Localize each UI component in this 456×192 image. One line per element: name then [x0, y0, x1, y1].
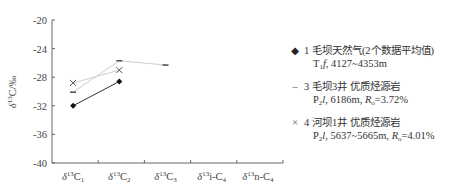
x-tick-label: δ13C1	[62, 170, 85, 184]
y-tick-label: -32	[33, 101, 47, 112]
y-axis-label: δ13C/‰	[6, 75, 18, 108]
x-marker-icon	[70, 80, 76, 86]
legend-detail: P2l, 6186m, Ro=3.72%	[304, 93, 456, 110]
legend-title: 1 毛坝天然气(2个数据平均值)	[304, 45, 434, 56]
diamond-marker-icon: ◆	[290, 44, 300, 57]
legend-detail: T1f, 4127~4353m	[304, 57, 456, 74]
legend-item-4: × 4 河坝1井 优质烃源岩 P2l, 5637~5665m, Ro=4.01%	[290, 116, 456, 146]
dash-marker-icon: –	[290, 80, 300, 93]
legend-detail: P2l, 5637~5665m, Ro=4.01%	[304, 129, 456, 146]
x-marker-icon: ×	[290, 116, 300, 129]
x-tick-label: δ13C3	[154, 170, 177, 184]
y-tick-label: -40	[33, 158, 47, 169]
diamond-marker-icon	[116, 78, 122, 84]
legend-item-3: – 3 毛坝3井 优质烃源岩 P2l, 6186m, Ro=3.72%	[290, 80, 456, 110]
diamond-marker-icon	[70, 103, 76, 109]
y-tick-label: -36	[33, 129, 47, 140]
y-tick-label: -24	[33, 44, 48, 55]
svg-text:δ13C/‰: δ13C/‰	[6, 75, 18, 108]
x-tick-label: δ13C2	[108, 170, 131, 184]
x-tick-label: δ13i-C4	[197, 170, 226, 184]
legend-title: 3 毛坝3井 优质烃源岩	[304, 81, 400, 92]
legend-item-1: ◆ 1 毛坝天然气(2个数据平均值) T1f, 4127~4353m	[290, 44, 456, 74]
series-layer	[70, 61, 168, 109]
legend: ◆ 1 毛坝天然气(2个数据平均值) T1f, 4127~4353m – 3 毛…	[290, 44, 456, 152]
x-tick-label: δ13n-C4	[242, 170, 274, 184]
legend-title: 4 河坝1井 优质烃源岩	[304, 117, 400, 128]
x-marker-icon	[116, 67, 122, 73]
y-tick-label: -28	[33, 72, 47, 83]
y-tick-label: -20	[33, 15, 47, 26]
x-ticks: δ13C1δ13C2δ13C3δ13i-C4δ13n-C4	[62, 160, 283, 184]
